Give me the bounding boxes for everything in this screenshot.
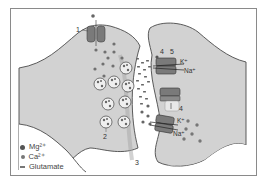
legend-label-ca: Ca²⁺: [29, 152, 45, 162]
label-na-top: Na⁺: [184, 67, 196, 74]
label-2: 2: [103, 133, 107, 140]
legend-item-ca: Ca²⁺: [20, 152, 64, 162]
mg-ion-icon: [20, 145, 25, 150]
label-1: 1: [76, 26, 80, 33]
legend-label-mg: Mg²⁺: [29, 142, 46, 152]
legend: Mg²⁺ Ca²⁺ Glutamate: [20, 142, 64, 172]
legend-label-glutamate: Glutamate: [29, 162, 64, 172]
label-5: 5: [170, 48, 174, 55]
label-na-bottom: Na⁺: [173, 130, 185, 137]
label-4-top: 4: [160, 48, 164, 55]
ca-ion-icon: [21, 155, 25, 159]
legend-item-glutamate: Glutamate: [20, 162, 64, 172]
label-k-bottom: K⁺: [177, 117, 185, 124]
label-4-bottom: 4: [179, 105, 183, 112]
faint-caption: [10, 178, 257, 184]
legend-item-mg: Mg²⁺: [20, 142, 64, 152]
glutamate-icon: [20, 166, 25, 168]
label-3: 3: [135, 159, 139, 166]
label-k-top: K⁺: [180, 58, 188, 65]
